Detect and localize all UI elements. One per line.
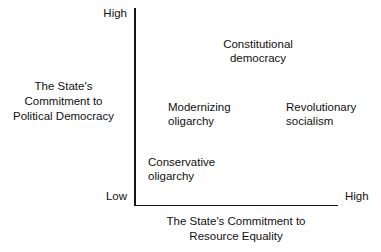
quadrant-line-1: Revolutionary xyxy=(286,100,356,114)
quadrant-line-2: democracy xyxy=(202,51,314,65)
y-axis-high-label: High xyxy=(0,7,127,20)
y-axis-title-line-3: Political Democracy xyxy=(0,109,127,124)
x-axis-title-line-1: The State's Commitment to xyxy=(134,214,338,229)
quadrant-label-revolutionary-socialism: Revolutionary socialism xyxy=(286,100,356,128)
y-axis-line xyxy=(134,8,136,206)
y-axis-title-line-1: The State's xyxy=(0,79,127,94)
quadrant-label-modernizing-oligarchy: Modernizing oligarchy xyxy=(168,100,231,128)
x-axis-title-line-2: Resource Equality xyxy=(134,229,338,244)
quadrant-line-2: socialism xyxy=(286,114,356,128)
quadrant-line-1: Constitutional xyxy=(202,37,314,51)
quadrant-line-1: Conservative xyxy=(148,155,215,169)
quadrant-label-constitutional-democracy: Constitutional democracy xyxy=(202,37,314,65)
x-axis-line xyxy=(134,205,338,207)
x-axis-high-label: High xyxy=(345,190,369,203)
quadrant-line-2: oligarchy xyxy=(148,169,215,183)
y-axis-title-line-2: Commitment to xyxy=(0,94,127,109)
quadrant-line-2: oligarchy xyxy=(168,114,231,128)
typology-chart: High Low High The State's Commitment to … xyxy=(0,0,381,252)
y-axis-title: The State's Commitment to Political Demo… xyxy=(0,79,127,124)
y-axis-low-label: Low xyxy=(0,190,127,203)
quadrant-line-1: Modernizing xyxy=(168,100,231,114)
x-axis-title: The State's Commitment to Resource Equal… xyxy=(134,214,338,244)
quadrant-label-conservative-oligarchy: Conservative oligarchy xyxy=(148,155,215,183)
